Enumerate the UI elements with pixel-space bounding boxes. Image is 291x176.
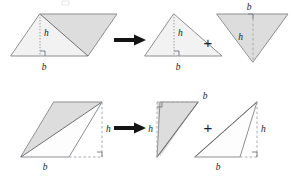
row1-source-parallelogram: h b [11,14,117,72]
row1-plus-operator: + [204,34,213,51]
label-b-row1-parallelogram: b [42,62,47,72]
label-h-row2-parallelogram: h [106,124,111,134]
label-h-row1-triangle1: h [178,28,183,38]
scan-artifact-top [62,1,69,5]
right-angle-icon [97,152,102,157]
label-h-row1-parallelogram: h [44,28,49,38]
row2-triangle-shaded: h b [148,91,207,157]
label-h-row2-triangle2: h [261,124,266,134]
right-angle-icon [252,152,257,157]
label-b-row2-parallelogram: b [43,162,48,172]
label-b-row1-triangle1: b [176,62,181,72]
row1-triangle-inverted: b h [217,2,288,62]
row1-arrow-icon [114,35,146,46]
row2-source-parallelogram: h b [21,102,111,172]
row2-plus-operator: + [204,119,213,136]
row2-triangle-white: h b [195,102,266,172]
label-b-row1-triangle2: b [247,2,252,12]
figure-canvas: h b h b + b h [0,0,291,176]
label-h-row1-triangle2: h [238,32,243,42]
label-h-row2-triangle1: h [148,124,153,134]
label-b-row2-triangle1: b [203,91,208,101]
label-b-row2-triangle2: b [216,162,221,172]
row2-arrow-icon [114,123,146,134]
geometry-figure: h b h b + b h [0,0,291,176]
